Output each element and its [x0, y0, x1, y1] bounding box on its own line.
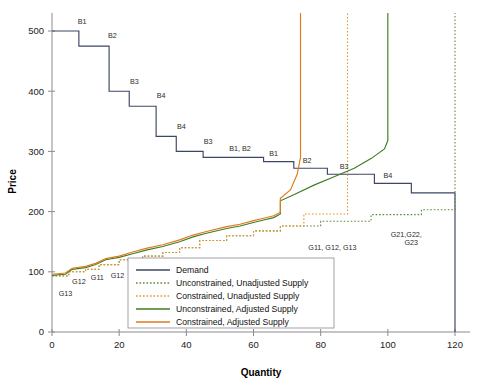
data-label: B1 — [269, 149, 278, 158]
y-tick-label: 300 — [28, 146, 44, 157]
series-line-2 — [52, 13, 348, 276]
series-line-3 — [52, 13, 388, 275]
x-tick-label: 20 — [114, 339, 125, 350]
data-label: B1 — [78, 17, 87, 26]
data-label: B3 — [340, 162, 349, 171]
x-tick-label: 60 — [248, 339, 259, 350]
data-label: G11, G12, G13 — [308, 243, 356, 252]
supply-demand-chart: 0100200300400500020406080100120QuantityP… — [0, 0, 485, 380]
y-axis-title: Price — [7, 169, 18, 194]
x-axis-title: Quantity — [241, 367, 282, 378]
chart-canvas: 0100200300400500020406080100120QuantityP… — [0, 0, 485, 380]
data-label: G13 — [59, 289, 73, 298]
data-label: B1, B2 — [229, 144, 251, 153]
data-label: B4 — [177, 122, 186, 131]
legend-label-2[interactable]: Constrained, Unadjusted Supply — [176, 291, 300, 301]
x-tick-label: 100 — [380, 339, 396, 350]
data-label: B2 — [108, 31, 117, 40]
x-tick-label: 0 — [49, 339, 54, 350]
x-tick-label: 80 — [315, 339, 326, 350]
data-label: B3 — [204, 137, 213, 146]
data-label: B4 — [157, 91, 166, 100]
data-label: G12 — [72, 277, 86, 286]
data-label: B4 — [383, 171, 392, 180]
y-tick-label: 500 — [28, 25, 44, 36]
legend-label-3[interactable]: Unconstrained, Adjusted Supply — [176, 304, 299, 314]
data-label: B3 — [130, 77, 139, 86]
legend-label-4[interactable]: Constrained, Adjusted Supply — [176, 317, 289, 327]
y-tick-label: 0 — [39, 326, 44, 337]
legend-label-1[interactable]: Unconstrained, Unadjusted Supply — [176, 278, 309, 288]
x-tick-label: 120 — [447, 339, 463, 350]
data-label: G23 — [405, 238, 419, 247]
data-label: G12 — [111, 271, 125, 280]
legend-label-0[interactable]: Demand — [176, 265, 209, 275]
data-label: G11 — [91, 273, 104, 282]
data-label: B2 — [303, 156, 312, 165]
x-tick-label: 40 — [181, 339, 192, 350]
y-tick-label: 100 — [28, 266, 44, 277]
y-tick-label: 200 — [28, 206, 44, 217]
y-tick-label: 400 — [28, 86, 44, 97]
